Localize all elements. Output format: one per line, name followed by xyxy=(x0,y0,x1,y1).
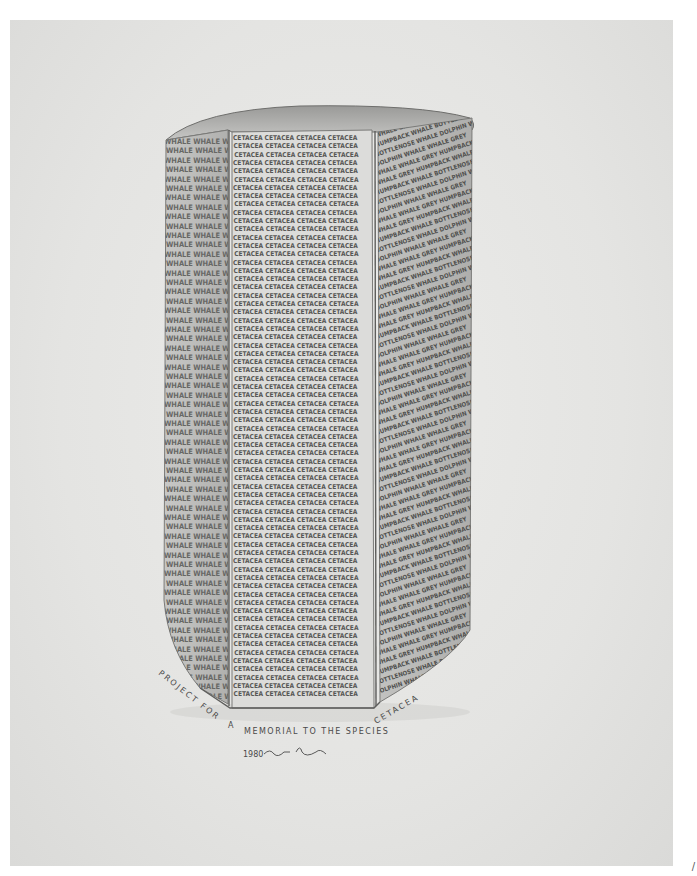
svg-text:CETACEA CETACEA CETACEA CETACE: CETACEA CETACEA CETACEA CETACEA xyxy=(234,416,359,424)
svg-text:CETACEA CETACEA CETACEA CETACE: CETACEA CETACEA CETACEA CETACEA xyxy=(234,292,359,300)
svg-text:CETACEA CETACEA CETACEA CETACE: CETACEA CETACEA CETACEA CETACEA xyxy=(233,532,358,540)
svg-text:CETACEA CETACEA CETACEA CETACE: CETACEA CETACEA CETACEA CETACEA xyxy=(233,408,358,416)
svg-text:CETACEA CETACEA CETACEA CETACE: CETACEA CETACEA CETACEA CETACEA xyxy=(234,225,359,233)
svg-text:CETACEA CETACEA CETACEA CETACE: CETACEA CETACEA CETACEA CETACEA xyxy=(233,632,358,640)
caption-article: A xyxy=(228,721,234,730)
svg-text:CETACEA CETACEA CETACEA CETACE: CETACEA CETACEA CETACEA CETACEA xyxy=(234,665,359,673)
svg-text:CETACEA CETACEA CETACEA CETACE: CETACEA CETACEA CETACEA CETACEA xyxy=(234,599,359,607)
svg-text:CETACEA CETACEA CETACEA CETACE: CETACEA CETACEA CETACEA CETACEA xyxy=(234,591,359,599)
svg-text:CETACEA CETACEA CETACEA CETACE: CETACEA CETACEA CETACEA CETACEA xyxy=(234,690,359,698)
svg-text:CETACEA CETACEA CETACEA CETACE: CETACEA CETACEA CETACEA CETACEA xyxy=(233,607,358,615)
svg-text:CETACEA CETACEA CETACEA CETACE: CETACEA CETACEA CETACEA CETACEA xyxy=(234,366,359,374)
svg-text:CETACEA CETACEA CETACEA CETACE: CETACEA CETACEA CETACEA CETACEA xyxy=(234,574,359,582)
svg-text:CETACEA CETACEA CETACEA CETACE: CETACEA CETACEA CETACEA CETACEA xyxy=(233,159,358,167)
svg-text:CETACEA CETACEA CETACEA CETACE: CETACEA CETACEA CETACEA CETACEA xyxy=(234,524,359,532)
svg-text:CETACEA CETACEA CETACEA CETACE: CETACEA CETACEA CETACEA CETACEA xyxy=(234,640,359,648)
svg-text:CETACEA CETACEA CETACEA CETACE: CETACEA CETACEA CETACEA CETACEA xyxy=(234,350,359,358)
svg-text:CETACEA CETACEA CETACEA CETACE: CETACEA CETACEA CETACEA CETACEA xyxy=(234,192,359,200)
svg-text:CETACEA CETACEA CETACEA CETACE: CETACEA CETACEA CETACEA CETACEA xyxy=(234,474,359,482)
svg-text:CETACEA CETACEA CETACEA CETACE: CETACEA CETACEA CETACEA CETACEA xyxy=(234,466,359,474)
svg-text:CETACEA CETACEA CETACEA CETACE: CETACEA CETACEA CETACEA CETACEA xyxy=(234,549,359,557)
svg-text:CETACEA CETACEA CETACEA CETACE: CETACEA CETACEA CETACEA CETACEA xyxy=(234,142,359,150)
svg-text:CETACEA CETACEA CETACEA CETACE: CETACEA CETACEA CETACEA CETACEA xyxy=(234,566,359,574)
svg-text:CETACEA CETACEA CETACEA CETACE: CETACEA CETACEA CETACEA CETACEA xyxy=(234,250,359,258)
svg-text:CETACEA CETACEA CETACEA CETACE: CETACEA CETACEA CETACEA CETACEA xyxy=(233,483,358,491)
front-face-inscription: CETACEA CETACEA CETACEA CETACEACETACEA C… xyxy=(233,134,359,698)
svg-text:CETACEA CETACEA CETACEA CETACE: CETACEA CETACEA CETACEA CETACEA xyxy=(234,176,359,184)
svg-text:CETACEA CETACEA CETACEA CETACE: CETACEA CETACEA CETACEA CETACEA xyxy=(233,508,358,516)
svg-text:CETACEA CETACEA CETACEA CETACE: CETACEA CETACEA CETACEA CETACEA xyxy=(233,657,358,665)
svg-text:CETACEA CETACEA CETACEA CETACE: CETACEA CETACEA CETACEA CETACEA xyxy=(234,425,359,433)
right-edge-line xyxy=(375,131,376,706)
caption-date: 1980 xyxy=(243,750,263,759)
svg-text:CETACEA CETACEA CETACEA CETACE: CETACEA CETACEA CETACEA CETACEA xyxy=(234,242,359,250)
svg-text:CETACEA CETACEA CETACEA CETACE: CETACEA CETACEA CETACEA CETACEA xyxy=(233,134,358,142)
svg-text:CETACEA CETACEA CETACEA CETACE: CETACEA CETACEA CETACEA CETACEA xyxy=(234,375,359,383)
svg-text:CETACEA CETACEA CETACEA CETACE: CETACEA CETACEA CETACEA CETACEA xyxy=(233,433,358,441)
scan-edge-mark: / xyxy=(692,861,695,872)
svg-text:CETACEA CETACEA CETACEA CETACE: CETACEA CETACEA CETACEA CETACEA xyxy=(234,167,359,175)
svg-text:CETACEA CETACEA CETACEA CETACE: CETACEA CETACEA CETACEA CETACEA xyxy=(234,200,359,208)
svg-text:CETACEA CETACEA CETACEA CETACE: CETACEA CETACEA CETACEA CETACEA xyxy=(234,217,359,225)
svg-text:CETACEA CETACEA CETACEA CETACE: CETACEA CETACEA CETACEA CETACEA xyxy=(234,499,359,507)
svg-text:CETACEA CETACEA CETACEA CETACE: CETACEA CETACEA CETACEA CETACEA xyxy=(234,541,359,549)
drawing-canvas: CETACEA CETACEA CETACEA CETACEACETACEA C… xyxy=(0,0,697,876)
svg-text:CETACEA CETACEA CETACEA CETACE: CETACEA CETACEA CETACEA CETACEA xyxy=(233,259,358,267)
svg-text:CETACEA CETACEA CETACEA CETACE: CETACEA CETACEA CETACEA CETACEA xyxy=(233,458,358,466)
svg-text:CETACEA CETACEA CETACEA CETACE: CETACEA CETACEA CETACEA CETACEA xyxy=(234,674,359,682)
svg-text:CETACEA CETACEA CETACEA CETACE: CETACEA CETACEA CETACEA CETACEA xyxy=(234,400,359,408)
svg-text:CETACEA CETACEA CETACEA CETACE: CETACEA CETACEA CETACEA CETACEA xyxy=(233,209,358,217)
artist-signature xyxy=(264,748,326,756)
svg-text:CETACEA CETACEA CETACEA CETACE: CETACEA CETACEA CETACEA CETACEA xyxy=(234,441,359,449)
svg-text:CETACEA CETACEA CETACEA CETACE: CETACEA CETACEA CETACEA CETACEA xyxy=(234,491,359,499)
svg-text:CETACEA CETACEA CETACEA CETACE: CETACEA CETACEA CETACEA CETACEA xyxy=(234,516,359,524)
svg-text:CETACEA CETACEA CETACEA CETACE: CETACEA CETACEA CETACEA CETACEA xyxy=(233,308,358,316)
svg-text:CETACEA CETACEA CETACEA CETACE: CETACEA CETACEA CETACEA CETACEA xyxy=(234,449,359,457)
svg-text:CETACEA CETACEA CETACEA CETACE: CETACEA CETACEA CETACEA CETACEA xyxy=(234,624,359,632)
svg-text:CETACEA CETACEA CETACEA CETACE: CETACEA CETACEA CETACEA CETACEA xyxy=(234,151,359,159)
svg-text:CETACEA CETACEA CETACEA CETACE: CETACEA CETACEA CETACEA CETACEA xyxy=(233,682,358,690)
svg-text:CETACEA CETACEA CETACEA CETACE: CETACEA CETACEA CETACEA CETACEA xyxy=(234,342,359,350)
svg-text:CETACEA CETACEA CETACEA CETACE: CETACEA CETACEA CETACEA CETACEA xyxy=(234,649,359,657)
svg-text:CETACEA CETACEA CETACEA CETACE: CETACEA CETACEA CETACEA CETACEA xyxy=(234,325,359,333)
svg-text:CETACEA CETACEA CETACEA CETACE: CETACEA CETACEA CETACEA CETACEA xyxy=(233,557,358,565)
svg-text:CETACEA CETACEA CETACEA CETACE: CETACEA CETACEA CETACEA CETACEA xyxy=(233,283,358,291)
svg-text:CETACEA CETACEA CETACEA CETACE: CETACEA CETACEA CETACEA CETACEA xyxy=(234,317,359,325)
svg-text:CETACEA CETACEA CETACEA CETACE: CETACEA CETACEA CETACEA CETACEA xyxy=(234,391,359,399)
svg-text:CETACEA CETACEA CETACEA CETACE: CETACEA CETACEA CETACEA CETACEA xyxy=(233,184,358,192)
caption-memorial: MEMORIAL TO THE SPECIES xyxy=(244,727,389,736)
svg-text:CETACEA CETACEA CETACEA CETACE: CETACEA CETACEA CETACEA CETACEA xyxy=(233,234,358,242)
svg-text:CETACEA CETACEA CETACEA CETACE: CETACEA CETACEA CETACEA CETACEA xyxy=(234,300,359,308)
svg-text:CETACEA CETACEA CETACEA CETACE: CETACEA CETACEA CETACEA CETACEA xyxy=(234,275,359,283)
svg-text:CETACEA CETACEA CETACEA CETACE: CETACEA CETACEA CETACEA CETACEA xyxy=(233,582,358,590)
svg-text:CETACEA CETACEA CETACEA CETACE: CETACEA CETACEA CETACEA CETACEA xyxy=(233,383,358,391)
svg-text:CETACEA CETACEA CETACEA CETACE: CETACEA CETACEA CETACEA CETACEA xyxy=(234,267,359,275)
svg-text:CETACEA CETACEA CETACEA CETACE: CETACEA CETACEA CETACEA CETACEA xyxy=(233,358,358,366)
svg-text:CETACEA CETACEA CETACEA CETACE: CETACEA CETACEA CETACEA CETACEA xyxy=(234,615,359,623)
svg-text:CETACEA CETACEA CETACEA CETACE: CETACEA CETACEA CETACEA CETACEA xyxy=(233,333,358,341)
